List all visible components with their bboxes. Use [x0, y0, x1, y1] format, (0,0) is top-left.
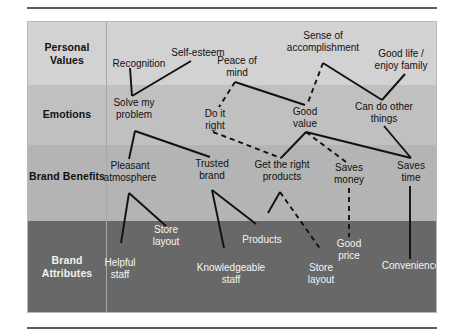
- row-label-emotions: Emotions: [28, 108, 106, 121]
- node-good-life-enjoy-family[interactable]: Good life / enjoy family: [365, 48, 437, 71]
- node-do-it-right[interactable]: Do it right: [192, 108, 238, 131]
- band-brand-benefits: [28, 145, 436, 221]
- bottom-divider-rule: [27, 327, 437, 329]
- node-solve-my-problem[interactable]: Solve my problem: [102, 97, 166, 120]
- node-sense-of-accomplishment[interactable]: Sense of accomplishment: [274, 30, 372, 53]
- row-label-personal-values: Personal Values: [28, 41, 106, 66]
- node-can-do-other-things[interactable]: Can do other things: [341, 101, 427, 124]
- node-helpful-staff[interactable]: Helpful staff: [92, 257, 148, 280]
- node-trusted-brand[interactable]: Trusted brand: [183, 158, 241, 181]
- node-store-layout-left[interactable]: Store layout: [140, 224, 192, 247]
- node-convenience[interactable]: Convenience: [378, 260, 437, 272]
- node-get-the-right-products[interactable]: Get the right products: [242, 159, 322, 182]
- page-root: Personal Values Emotions Brand Benefits …: [0, 0, 463, 335]
- node-saves-time[interactable]: Saves time: [388, 160, 434, 183]
- node-knowledgeable-staff[interactable]: Knowledgeable staff: [185, 262, 277, 285]
- node-saves-money[interactable]: Saves money: [325, 162, 373, 185]
- node-peace-of-mind[interactable]: Peace of mind: [208, 55, 266, 78]
- top-divider-rule: [27, 7, 437, 9]
- node-store-layout-right[interactable]: Store layout: [295, 262, 347, 285]
- node-products[interactable]: Products: [231, 234, 293, 246]
- node-pleasant-atmosphere[interactable]: Pleasant atmosphere: [94, 160, 166, 183]
- node-recognition[interactable]: Recognition: [104, 58, 174, 70]
- node-good-value[interactable]: Good value: [281, 106, 329, 129]
- means-end-chain-diagram: Personal Values Emotions Brand Benefits …: [27, 21, 437, 313]
- node-good-price[interactable]: Good price: [325, 238, 373, 261]
